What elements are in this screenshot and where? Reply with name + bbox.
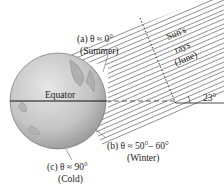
sun-rays-earth-diagram: (a) θ ≈ 0° (Summer) Equator Sun's rays (… [0, 0, 224, 189]
leader-line-a [103, 55, 108, 72]
leader-line-b [96, 130, 106, 138]
tilt-angle-arc [188, 96, 190, 103]
label-b-angle: (b) θ ≈ 50°– 60° [107, 141, 169, 152]
label-c-angle: (c) θ ≈ 90° [47, 162, 88, 173]
label-equator: Equator [45, 90, 76, 100]
leader-line-c [66, 149, 72, 160]
label-a-angle: (a) θ ≈ 0° [77, 34, 113, 45]
label-c-season: (Cold) [58, 174, 83, 185]
label-b-season: (Winter) [127, 153, 159, 164]
label-a-season: (Summer) [80, 46, 119, 57]
label-tilt-angle: 23° [203, 93, 217, 103]
